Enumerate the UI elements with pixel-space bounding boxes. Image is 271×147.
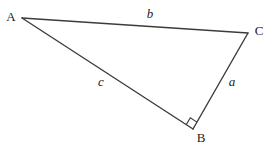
side-a-line (193, 33, 248, 129)
side-b-line (22, 18, 248, 33)
side-a-label: a (229, 74, 236, 89)
side-c-line (22, 18, 193, 129)
side-b-label: b (147, 6, 154, 21)
triangle-diagram: A B C b c a (0, 0, 271, 147)
vertex-c-label: C (255, 23, 264, 38)
side-c-label: c (98, 74, 104, 89)
vertex-a-label: A (6, 9, 16, 24)
triangle-figure-svg: A B C b c a (0, 0, 271, 147)
vertex-b-label: B (197, 130, 206, 145)
